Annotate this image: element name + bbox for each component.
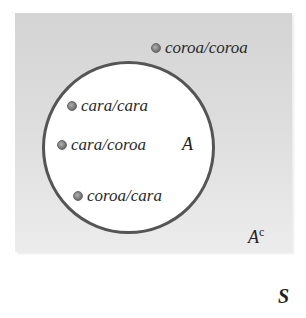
outcome-label: cara/cara [81, 96, 148, 116]
outcome-dot-icon [67, 101, 77, 111]
outcome-dot-icon [73, 191, 83, 201]
complement-superscript: c [259, 225, 264, 239]
outcome-dot-icon [57, 140, 67, 150]
outcome-coroa-coroa: coroa/coroa [151, 38, 248, 58]
outcome-label: coroa/cara [87, 186, 162, 206]
complement-label-base: A [248, 227, 259, 247]
outcome-label: cara/coroa [71, 135, 146, 155]
outcome-coroa-cara: coroa/cara [73, 186, 162, 206]
event-a-label: A [182, 134, 193, 155]
sample-space-label: S [278, 285, 289, 308]
complement-label: Ac [248, 225, 264, 248]
outcome-dot-icon [151, 43, 161, 53]
outcome-cara-coroa: cara/coroa [57, 135, 146, 155]
outcome-label: coroa/coroa [165, 38, 248, 58]
outcome-cara-cara: cara/cara [67, 96, 148, 116]
